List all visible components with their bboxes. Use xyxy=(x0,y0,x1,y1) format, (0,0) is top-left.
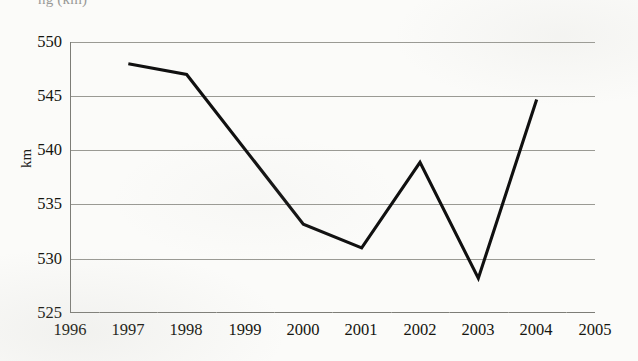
x-tick-label: 2003 xyxy=(449,322,507,339)
x-tick-label: 1999 xyxy=(216,322,274,339)
y-axis-tick-labels: 550 545 540 535 530 525 xyxy=(14,0,62,361)
x-tick-label: 2005 xyxy=(566,322,624,339)
x-tick-label: 1996 xyxy=(41,322,99,339)
plot-area xyxy=(70,42,595,313)
y-tick-label: 530 xyxy=(18,251,62,268)
axis-lines xyxy=(70,42,595,313)
plot-svg xyxy=(70,42,595,313)
y-tick-label: 550 xyxy=(18,34,62,51)
x-tick-label: 2004 xyxy=(507,322,565,339)
gridlines xyxy=(70,43,595,260)
x-tick-label: 2000 xyxy=(274,322,332,339)
x-tick-label: 2002 xyxy=(391,322,449,339)
y-tick-label: 540 xyxy=(18,142,62,159)
y-tick-label: 545 xyxy=(18,88,62,105)
x-tick-label: 1998 xyxy=(157,322,215,339)
data-series-line xyxy=(128,64,536,279)
line-chart-figure: ng (km) km 550 545 540 535 530 525 1996 … xyxy=(0,0,638,361)
y-tick-label: 535 xyxy=(18,196,62,213)
x-tick-label: 2001 xyxy=(332,322,390,339)
x-tick-label: 1997 xyxy=(99,322,157,339)
